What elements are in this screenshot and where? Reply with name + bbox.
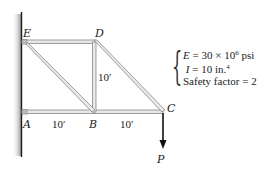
member-AB [22, 110, 95, 114]
label-C: C [167, 102, 176, 115]
label-A: A [22, 118, 31, 131]
property-I: I = 10 in.4 [175, 61, 257, 75]
property-E: E = 30 × 106 psi [175, 47, 257, 61]
member-EB [23, 41, 95, 112]
brace-icon: { [172, 45, 182, 85]
label-P: P [156, 153, 165, 166]
member-DB [92, 42, 96, 112]
material-properties: { E = 30 × 106 psi I = 10 in.4 Safety fa… [175, 47, 257, 87]
load-arrow [160, 113, 167, 149]
member-ED [22, 40, 95, 44]
dim-BC: 10′ [120, 118, 133, 130]
dim-DB: 10′ [98, 71, 111, 83]
joint-E [22, 40, 27, 45]
label-E: E [22, 27, 31, 40]
joint-A [22, 110, 27, 115]
wall-support [12, 12, 22, 157]
label-B: B [88, 118, 97, 131]
property-safety-factor: Safety factor = 2 [175, 75, 257, 87]
dim-AB: 10′ [52, 118, 65, 130]
label-D: D [94, 27, 104, 40]
truss-members [22, 40, 165, 114]
member-BC [94, 110, 163, 114]
